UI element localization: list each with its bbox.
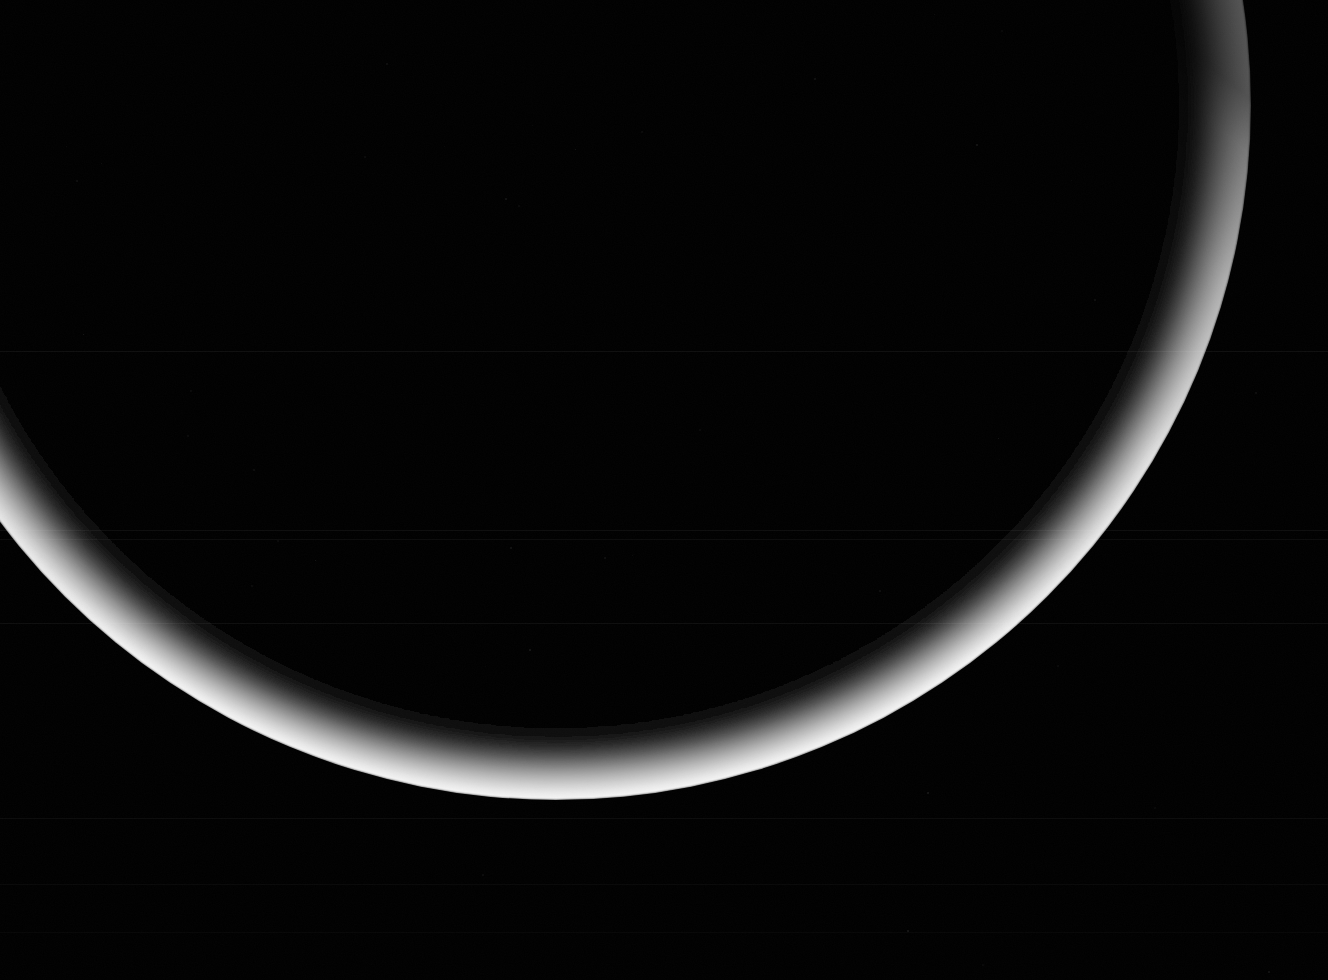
crescent-graphic [0,0,1328,980]
image-canvas [0,0,1328,980]
